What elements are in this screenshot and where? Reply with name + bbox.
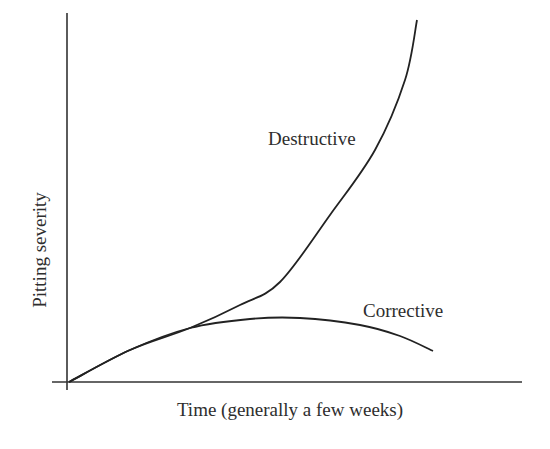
destructive-label: Destructive bbox=[268, 128, 356, 150]
x-axis-label: Time (generally a few weeks) bbox=[177, 399, 403, 421]
corrective-label: Corrective bbox=[363, 300, 443, 322]
chart-canvas bbox=[0, 0, 550, 449]
destructive-curve bbox=[69, 20, 417, 382]
y-axis-label: Pitting severity bbox=[29, 192, 51, 308]
corrective-curve bbox=[69, 317, 433, 382]
